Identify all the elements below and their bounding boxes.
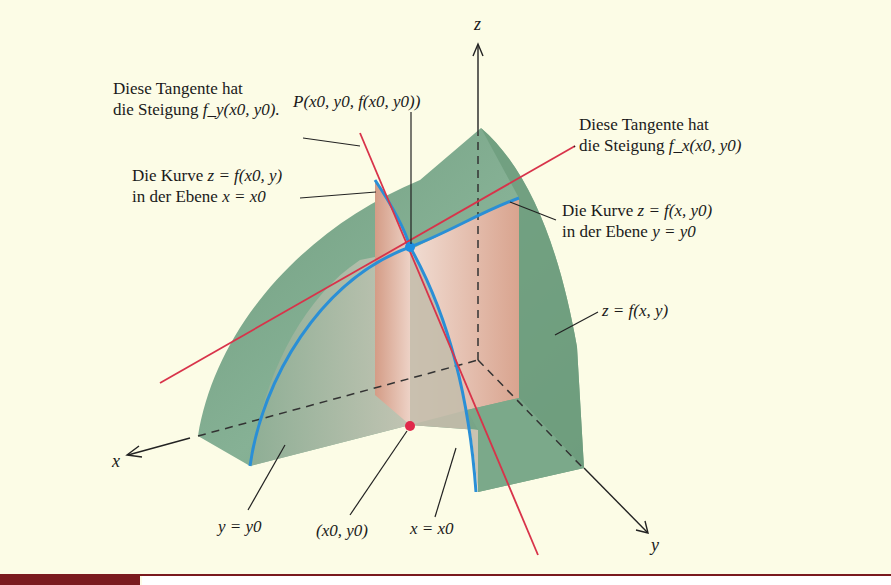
label-tangent-fx-line2: die Steigung f_x(x0, y0) bbox=[579, 135, 741, 156]
label-plane-y0: y = y0 bbox=[218, 516, 262, 537]
label-base-point: (x0, y0) bbox=[316, 520, 368, 541]
x-axis-label: x bbox=[112, 451, 120, 472]
leader-curve-x0 bbox=[300, 192, 376, 198]
leader-plane-x0 bbox=[435, 448, 456, 517]
point-P bbox=[405, 242, 415, 252]
bottom-page-area bbox=[142, 576, 891, 585]
z-axis-label: z bbox=[474, 14, 481, 35]
y-axis-label: y bbox=[651, 535, 659, 556]
label-tangent-fy-line1: Diese Tangente hat bbox=[113, 78, 280, 99]
point-x0-y0 bbox=[405, 421, 415, 431]
label-tangent-fy-line2: die Steigung f_y(x0, y0). bbox=[113, 99, 280, 120]
leader-tangent-fy bbox=[303, 138, 360, 146]
label-tangent-fx-line1: Diese Tangente hat bbox=[579, 114, 741, 135]
y-axis bbox=[584, 468, 647, 532]
bottom-bar bbox=[0, 574, 140, 585]
leader-tangent-fx bbox=[574, 146, 575, 147]
label-point-P: P(x0, y0, f(x0, y0)) bbox=[293, 91, 420, 112]
label-tangent-fx: Diese Tangente hat die Steigung f_x(x0, … bbox=[579, 114, 741, 156]
label-tangent-fy: Diese Tangente hat die Steigung f_y(x0, … bbox=[113, 78, 280, 120]
label-curve-x0: Die Kurve z = f(x0, y) in der Ebene x = … bbox=[132, 165, 282, 207]
label-curve-y0: Die Kurve z = f(x, y0) in der Ebene y = … bbox=[562, 200, 712, 242]
label-surface: z = f(x, y) bbox=[602, 300, 668, 321]
label-plane-x0: x = x0 bbox=[410, 518, 454, 539]
leader-base-point bbox=[350, 431, 407, 515]
